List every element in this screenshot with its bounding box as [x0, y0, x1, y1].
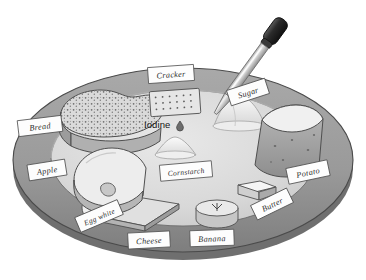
label-text-cheese: Cheese [136, 236, 162, 246]
food-cracker [149, 88, 201, 116]
label-card-cheese[interactable]: Cheese [128, 231, 171, 249]
illustration-canvas: Iodine Bread Cracker Sugar Potato Butter… [0, 0, 366, 280]
tray-illustration: Iodine Bread Cracker Sugar Potato Butter… [0, 0, 366, 280]
iodine-label: Iodine [144, 119, 170, 130]
label-card-cracker[interactable]: Cracker [147, 64, 194, 83]
label-text-banana: Banana [198, 234, 226, 244]
food-banana [196, 200, 238, 228]
apple-core [101, 183, 116, 196]
label-card-banana[interactable]: Banana [190, 229, 235, 247]
